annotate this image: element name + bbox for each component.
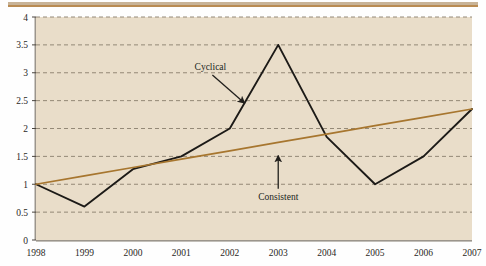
y-tick-label: 0.5 — [16, 208, 28, 218]
x-tick-label: 2001 — [172, 248, 191, 258]
x-tick-label: 1999 — [75, 248, 94, 258]
y-tick-label: 2 — [23, 124, 28, 134]
x-tick-label: 2007 — [463, 248, 482, 258]
x-tick-label: 1998 — [27, 248, 46, 258]
y-tick-label: 1 — [23, 180, 28, 190]
x-axis-tick-labels: 1998199920002001200220032004200520062007 — [27, 248, 482, 258]
x-tick-label: 2006 — [414, 248, 433, 258]
y-tick-label: 2.5 — [16, 96, 28, 106]
x-tick-label: 2003 — [269, 248, 288, 258]
y-tick-label: 3.5 — [16, 40, 28, 50]
plot-bottom-edge — [36, 240, 472, 242]
annotation-label-consistent: Consistent — [258, 192, 298, 202]
y-tick-label: 4 — [23, 13, 28, 23]
y-tick-label: 0 — [23, 236, 28, 246]
y-tick-label: 3 — [23, 68, 28, 78]
y-tick-label: 1.5 — [16, 152, 28, 162]
chart-figure: 00.511.522.533.54 1998199920002001200220… — [0, 0, 486, 266]
line-chart: 00.511.522.533.54 1998199920002001200220… — [0, 0, 486, 266]
x-tick-label: 2000 — [123, 248, 142, 258]
x-tick-label: 2004 — [317, 248, 336, 258]
x-tick-label: 2005 — [366, 248, 385, 258]
annotation-label-cyclical: Cyclical — [195, 62, 227, 72]
x-tick-label: 2002 — [220, 248, 239, 258]
y-axis-tick-labels: 00.511.522.533.54 — [16, 13, 28, 246]
